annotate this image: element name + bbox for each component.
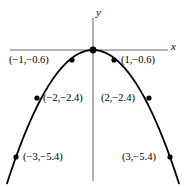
data-point <box>34 95 39 100</box>
data-point <box>69 57 74 62</box>
data-point <box>111 57 116 62</box>
point-label-pos3: (3,−5.4) <box>122 152 156 163</box>
data-point <box>13 154 18 159</box>
point-label-neg1: (−1,−0.6) <box>9 55 49 66</box>
x-axis-label: x <box>171 41 176 52</box>
point-label-neg3: (−3,−5.4) <box>23 152 63 163</box>
point-label-neg2: (−2,−2.4) <box>43 93 83 104</box>
point-label-pos1: (1,−0.6) <box>121 55 155 66</box>
parabola-graph-figure: y x (−1,−0.6) (1,−0.6) (−2,−2.4) (2,−2.4… <box>0 0 189 187</box>
data-point <box>167 154 172 159</box>
y-axis-label: y <box>96 7 101 18</box>
point-label-pos2: (2,−2.4) <box>101 93 135 104</box>
data-point-vertex <box>90 47 97 54</box>
data-point <box>146 95 151 100</box>
